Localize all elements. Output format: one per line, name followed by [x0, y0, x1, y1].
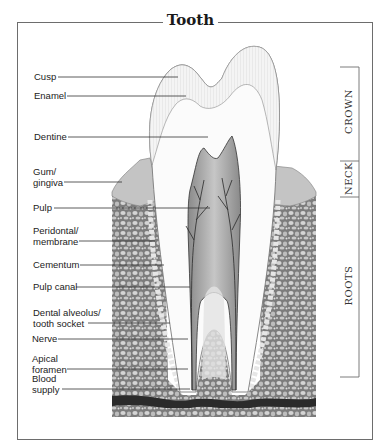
label-gum: Gum/ gingiva [33, 166, 63, 188]
label-periodontal-line1: Peridontal/ [33, 225, 78, 236]
label-enamel: Enamel [34, 90, 66, 101]
label-blood-supply: Blood supply [32, 373, 59, 395]
label-apical-foramen: Apical foramen [32, 353, 67, 375]
label-blood-line1: Blood [32, 373, 59, 384]
region-neck: NECK [343, 157, 354, 201]
label-nerve: Nerve [32, 333, 57, 344]
region-crown: CROWN [343, 82, 354, 142]
label-dentine: Dentine [34, 131, 67, 142]
label-gum-line2: gingiva [33, 177, 63, 188]
label-blood-line2: supply [32, 384, 59, 395]
label-alveolus-line2: tooth socket [33, 318, 101, 329]
label-cementum: Cementum [33, 259, 79, 270]
region-roots: ROOTS [343, 256, 354, 316]
label-apical-line1: Apical [32, 353, 67, 364]
label-gum-line1: Gum/ [33, 166, 63, 177]
label-alveolus-line1: Dental alveolus/ [33, 307, 101, 318]
label-pulp: Pulp [33, 202, 52, 213]
label-periodontal-line2: membrane [33, 236, 78, 247]
label-periodontal: Peridontal/ membrane [33, 225, 78, 247]
label-cusp: Cusp [34, 71, 56, 82]
label-pulp-canal: Pulp canal [33, 281, 77, 292]
label-alveolus: Dental alveolus/ tooth socket [33, 307, 101, 329]
